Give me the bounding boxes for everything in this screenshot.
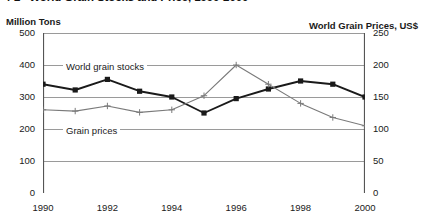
y-tick-label-left: 400 [0,59,35,70]
plot-area [43,33,365,193]
y-tick-label-right: 0 [373,187,378,198]
y-tick-label-left: 500 [0,27,35,38]
x-tick-label: 1990 [23,202,63,213]
figure-number: 4-2 [4,0,20,3]
series-annotation-grain-prices: Grain prices [63,125,120,136]
y-tick-label-right: 250 [373,27,389,38]
y-tick-label-left: 0 [0,187,35,198]
series-annotation-world-grain-stocks: World grain stocks [63,61,147,72]
x-tick-label: 1996 [216,202,256,213]
x-tick-label: 2000 [345,202,385,213]
chart-canvas [43,33,365,193]
y-tick-label-left: 300 [0,91,35,102]
left-axis-title: Million Tons [6,16,61,27]
x-tick-label: 1998 [281,202,321,213]
y-tick-label-right: 100 [373,123,389,134]
x-tick-label: 1992 [87,202,127,213]
y-tick-label-right: 50 [373,155,384,166]
y-tick-label-right: 150 [373,91,389,102]
y-tick-label-left: 200 [0,123,35,134]
y-tick-label-right: 200 [373,59,389,70]
figure-title-text: World Grain Stocks and Price, 1990-2000 [29,0,248,3]
right-axis-title: World Grain Prices, US$ [309,20,418,31]
x-tick-label: 1994 [152,202,192,213]
figure-title: 4-2World Grain Stocks and Price, 1990-20… [4,0,248,3]
y-tick-label-left: 100 [0,155,35,166]
